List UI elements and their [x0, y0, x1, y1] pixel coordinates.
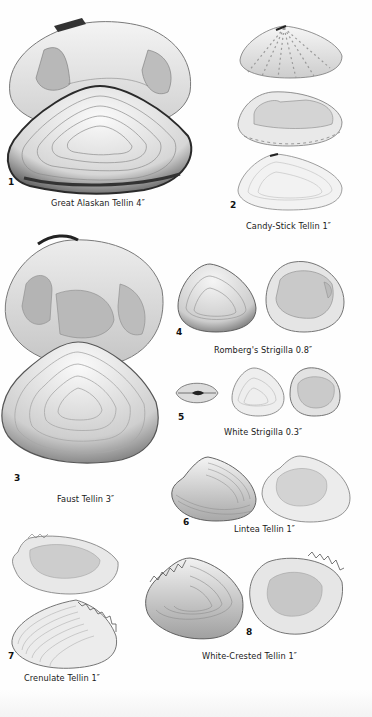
- white-crested-tellin-exterior-illustration: [142, 556, 246, 642]
- crenulate-tellin-interior-illustration: [8, 532, 120, 596]
- lintea-tellin-exterior-illustration: [170, 455, 258, 523]
- caption-white-strigilla: White Strigilla 0.3″: [224, 427, 302, 437]
- plate-number-2: 2: [230, 200, 236, 210]
- plate-number-8: 8: [246, 627, 252, 637]
- lintea-tellin-interior-illustration: [260, 454, 352, 524]
- candy-stick-tellin-exterior-illustration: [238, 24, 344, 80]
- caption-rombergs-strigilla: Romberg's Strigilla 0.8″: [214, 345, 312, 355]
- candy-stick-tellin-interior-illustration: [236, 90, 344, 148]
- candy-stick-tellin-side-illustration: [236, 152, 344, 212]
- rombergs-strigilla-exterior-illustration: [176, 262, 258, 334]
- field-guide-page: 1 Great Alaskan Tellin 4″: [0, 0, 372, 717]
- caption-white-crested-tellin: White-Crested Tellin 1″: [202, 651, 297, 661]
- caption-faust-tellin: Faust Tellin 3″: [57, 494, 114, 504]
- white-strigilla-interior-illustration: [288, 366, 342, 418]
- white-crested-tellin-interior-illustration: [248, 552, 346, 636]
- crenulate-tellin-exterior-illustration: [10, 596, 120, 670]
- page-margin: [0, 690, 372, 717]
- caption-great-alaskan-tellin: Great Alaskan Tellin 4″: [51, 198, 145, 208]
- caption-candy-stick-tellin: Candy-Stick Tellin 1″: [246, 221, 331, 231]
- caption-lintea-tellin: Lintea Tellin 1″: [234, 524, 295, 534]
- white-strigilla-hinge-view-illustration: [174, 378, 220, 408]
- rombergs-strigilla-interior-illustration: [264, 258, 346, 334]
- caption-crenulate-tellin: Crenulate Tellin 1″: [24, 673, 100, 683]
- great-alaskan-tellin-exterior-illustration: [4, 82, 196, 194]
- plate-number-1: 1: [8, 177, 14, 187]
- plate-number-7: 7: [8, 651, 14, 661]
- plate-number-6: 6: [183, 517, 189, 527]
- faust-tellin-exterior-illustration: [0, 340, 162, 466]
- plate-number-5: 5: [178, 412, 184, 422]
- plate-number-4: 4: [176, 327, 182, 337]
- white-strigilla-exterior-illustration: [230, 366, 286, 418]
- plate-number-3: 3: [14, 473, 20, 483]
